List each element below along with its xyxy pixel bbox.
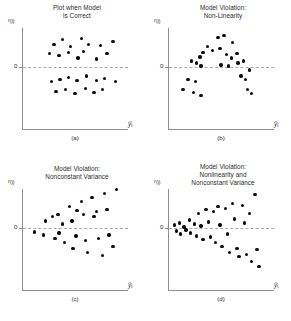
data-point (231, 41, 234, 44)
data-point (197, 212, 200, 215)
panel-b: Model Violation: Non-Linearityr(i)ŷi0(b) (146, 0, 291, 160)
x-axis-line (168, 129, 274, 130)
panel-d-plot-area: r(i)ŷi0(d) (168, 189, 274, 291)
data-point (75, 209, 78, 212)
y-axis-label: r(i) (8, 177, 15, 185)
data-point (111, 245, 114, 248)
zero-reference-line (23, 67, 128, 68)
data-point (70, 219, 73, 222)
data-point (212, 210, 215, 213)
data-point (67, 51, 70, 54)
panel-c-caption: (c) (22, 295, 128, 302)
data-point (42, 233, 45, 236)
data-point (241, 204, 244, 207)
panel-d-caption: (d) (168, 295, 274, 302)
x-axis-label: ŷi (274, 120, 278, 128)
data-point (56, 213, 59, 216)
data-point (71, 247, 74, 250)
data-point (54, 90, 57, 93)
data-point (199, 64, 202, 67)
data-point (192, 91, 195, 94)
panel-a-plot-area: r(i)ŷi0(a) (22, 28, 128, 130)
data-point (58, 78, 61, 81)
data-point (95, 57, 98, 60)
data-point (198, 55, 201, 58)
data-point (97, 237, 100, 240)
data-point (33, 230, 36, 233)
data-point (84, 87, 87, 90)
data-point (248, 68, 251, 71)
data-point (53, 237, 56, 240)
data-point (199, 224, 202, 227)
data-point (173, 223, 176, 226)
data-point (248, 212, 251, 215)
data-point (201, 51, 204, 54)
data-point (50, 80, 53, 83)
data-point (92, 91, 95, 94)
data-point (111, 40, 114, 43)
residual-plots-figure: Plot when Model is Correctr(i)ŷi0(a)Mode… (0, 0, 291, 321)
data-point (216, 205, 219, 208)
panel-c-title: Model Violation: Nonconstant Variance (14, 165, 140, 181)
data-point (188, 218, 191, 221)
data-point (227, 64, 230, 67)
data-point (74, 234, 77, 237)
data-point (206, 45, 209, 48)
data-point (73, 92, 76, 95)
data-point (237, 255, 240, 258)
data-point (80, 37, 83, 40)
data-point (209, 235, 212, 238)
data-point (224, 207, 227, 210)
data-point (244, 78, 247, 81)
y-axis-line (168, 189, 169, 291)
data-point (243, 221, 246, 224)
data-point (216, 36, 219, 39)
data-point (207, 220, 210, 223)
data-point (103, 77, 106, 80)
data-point (201, 238, 204, 241)
data-point (253, 193, 256, 196)
data-point (255, 248, 258, 251)
data-point (52, 43, 55, 46)
data-point (87, 43, 90, 46)
data-point (99, 44, 102, 47)
data-point (69, 45, 72, 48)
data-point (239, 74, 242, 77)
data-point (186, 78, 189, 81)
data-point (57, 231, 60, 234)
data-point (105, 208, 108, 211)
data-point (103, 192, 106, 195)
data-point (64, 88, 67, 91)
y-axis-label: r(i) (154, 177, 161, 185)
data-point (181, 88, 184, 91)
data-point (101, 254, 104, 257)
data-point (190, 59, 193, 62)
data-point (67, 76, 70, 79)
data-point (92, 215, 95, 218)
data-point (178, 221, 181, 224)
panel-c: Model Violation: Nonconstant Variancer(i… (0, 161, 145, 321)
data-point (48, 52, 51, 55)
data-point (68, 205, 71, 208)
data-point (250, 92, 253, 95)
y-axis-line (22, 28, 23, 130)
data-point (233, 217, 236, 220)
data-point (231, 202, 234, 205)
x-axis-label: ŷi (128, 120, 132, 128)
data-point (179, 232, 182, 235)
data-point (230, 56, 233, 59)
data-point (84, 239, 87, 242)
data-point (107, 233, 110, 236)
y-axis-label: r(i) (154, 16, 161, 24)
data-point (90, 196, 93, 199)
data-point (225, 53, 228, 56)
data-point (199, 94, 202, 97)
data-point (214, 241, 217, 244)
zero-tick-label: 0 (160, 62, 163, 69)
x-axis-line (22, 290, 128, 291)
data-point (75, 79, 78, 82)
data-point (245, 253, 248, 256)
data-point (235, 247, 238, 250)
data-point (195, 234, 198, 237)
data-point (114, 80, 117, 83)
